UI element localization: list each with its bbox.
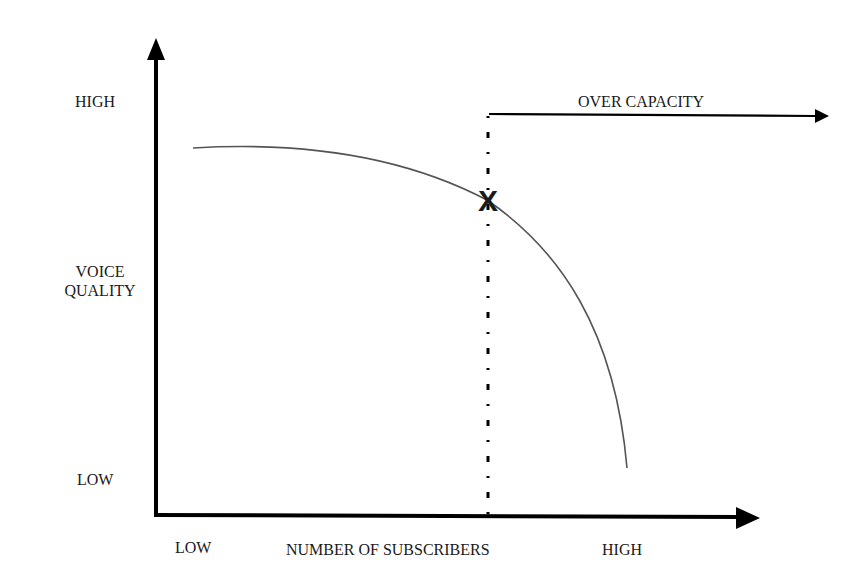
y-axis-title: VOICE QUALITY xyxy=(55,262,145,300)
capacity-marker: X xyxy=(478,186,498,216)
y-axis-high-label: HIGH xyxy=(75,92,115,111)
over-capacity-arrow xyxy=(489,109,829,123)
x-axis-high-label: HIGH xyxy=(602,540,642,559)
quality-curve xyxy=(193,146,627,468)
x-axis xyxy=(154,507,760,529)
over-capacity-label: OVER CAPACITY xyxy=(578,92,704,111)
y-axis xyxy=(147,38,165,516)
x-axis-low-label: LOW xyxy=(175,538,211,557)
y-axis-title-line1: VOICE xyxy=(55,262,145,281)
x-axis-title: NUMBER OF SUBSCRIBERS xyxy=(286,540,490,559)
y-axis-low-label: LOW xyxy=(77,470,113,489)
y-axis-arrow-icon xyxy=(147,38,165,60)
y-axis-title-line2: QUALITY xyxy=(55,281,145,300)
x-axis-arrow-icon xyxy=(736,507,760,529)
over-capacity-arrow-icon xyxy=(815,109,829,123)
